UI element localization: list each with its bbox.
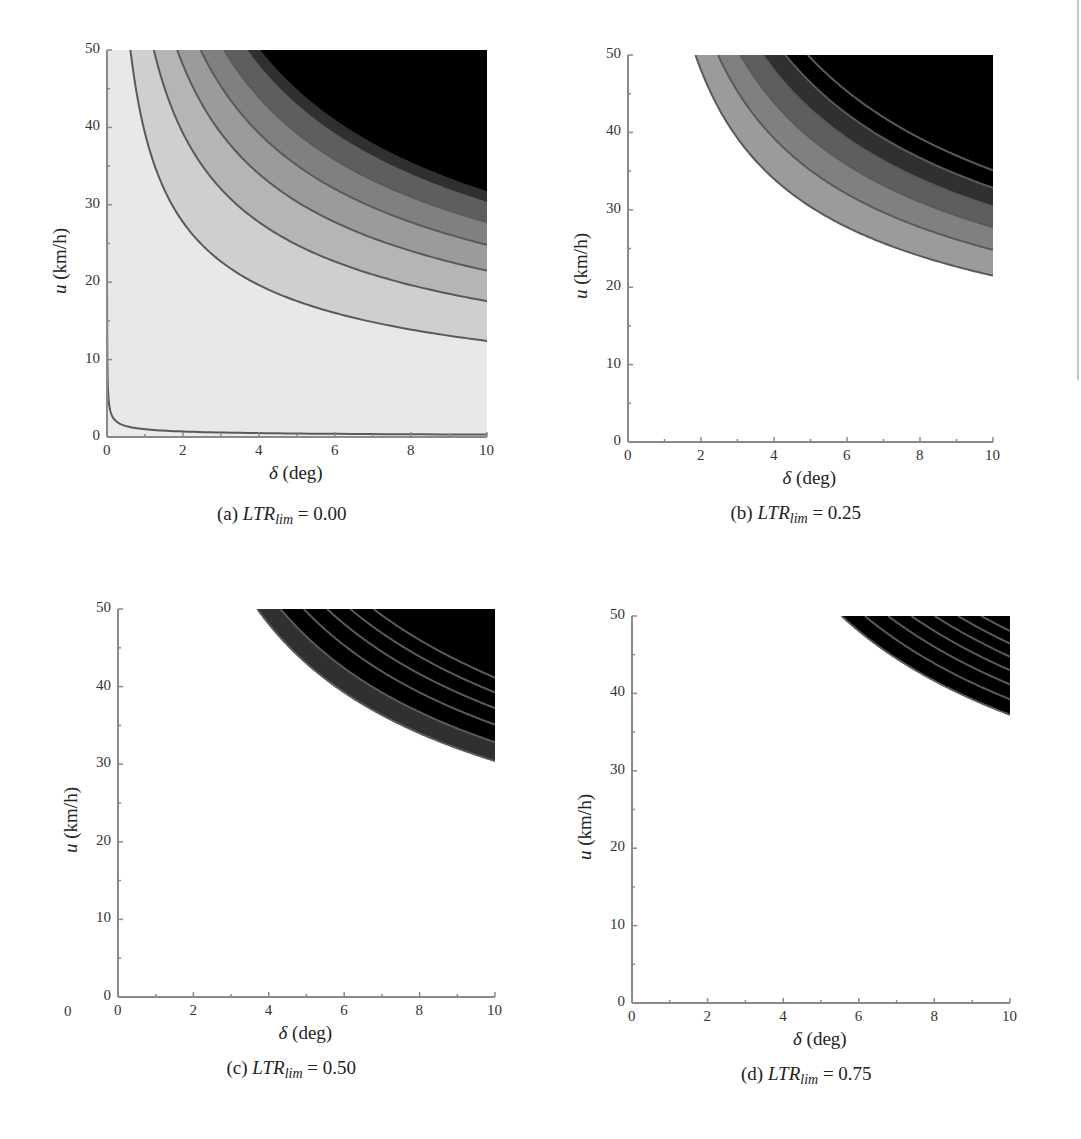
x-tick-label: 4 [255,443,263,458]
y-tick-label: 50 [85,41,100,56]
y-tick-label: 10 [610,917,625,932]
y-tick-label: 30 [606,201,621,216]
y-axis-label: u (km/h) [570,233,592,299]
y-axis-label: u (km/h) [574,794,596,860]
x-tick-label: 6 [843,448,851,463]
subplot-caption: (a) LTRlim = 0.00 [217,503,347,528]
x-tick-label: 0 [624,448,632,463]
y-tick-label: 40 [85,118,100,133]
x-tick-label: 4 [265,1003,273,1018]
x-tick-label: 8 [930,1009,938,1024]
y-tick-label: 40 [606,123,621,138]
x-tick-label: 6 [331,443,339,458]
y-tick-label: 10 [85,351,100,366]
y-tick-label: 10 [606,356,621,371]
x-tick-label: 2 [697,448,705,463]
x-tick-label: 10 [985,448,1000,463]
x-axis-label: δ (deg) [783,467,837,489]
x-tick-label: 2 [189,1003,197,1018]
y-axis-label: u (km/h) [49,228,71,294]
contour-plot-area [632,616,1012,1005]
y-tick-label: 0 [614,433,622,448]
page-edge-divider [1077,0,1079,380]
x-axis-label: δ (deg) [793,1028,847,1050]
y-tick-label: 40 [96,678,111,693]
y-tick-label: 50 [96,600,111,615]
x-tick-label: 4 [779,1009,787,1024]
y-tick-label: 20 [96,833,111,848]
x-tick-label: 8 [407,443,415,458]
x-axis-label: δ (deg) [269,462,323,484]
x-tick-label: 2 [179,443,187,458]
x-tick-label: 8 [916,448,924,463]
y-tick-label: 0 [618,994,626,1009]
subplot-b: 010203040500246810δ (deg)u (km/h)(b) LTR… [628,55,993,442]
subplot-caption: (d) LTRlim = 0.75 [741,1063,872,1088]
x-tick-label: 10 [1002,1009,1017,1024]
contour-plot-area [118,609,497,999]
y-tick-label: 40 [610,684,625,699]
y-tick-label: 50 [610,607,625,622]
y-tick-label: 30 [610,762,625,777]
x-tick-label: 10 [487,1003,502,1018]
y-tick-label: 0 [104,988,112,1003]
x-tick-label: 0 [114,1003,122,1018]
contour-plot-area [107,50,489,439]
subplot-caption: (c) LTRlim = 0.50 [227,1057,357,1082]
x-tick-label: 0 [628,1009,636,1024]
y-tick-label: 20 [606,278,621,293]
y-tick-label: 20 [85,273,100,288]
x-tick-label: 0 [103,443,111,458]
subplot-d: 010203040500246810δ (deg)u (km/h)(d) LTR… [632,616,1010,1003]
y-tick-label: 30 [85,196,100,211]
y-tick-label: 50 [606,46,621,61]
x-tick-label: 6 [340,1003,348,1018]
x-tick-label: 4 [770,448,778,463]
y-axis-label: u (km/h) [60,787,82,853]
y-tick-label: 0 [93,428,101,443]
stray-zero-label: 0 [64,1003,72,1020]
x-axis-label: δ (deg) [279,1022,333,1044]
y-tick-label: 20 [610,839,625,854]
x-tick-label: 2 [704,1009,712,1024]
x-tick-label: 10 [479,443,494,458]
subplot-c: 010203040500246810δ (deg)u (km/h)(c) LTR… [118,609,495,997]
y-tick-label: 10 [96,910,111,925]
x-tick-label: 6 [855,1009,863,1024]
y-tick-label: 30 [96,755,111,770]
subplot-caption: (b) LTRlim = 0.25 [731,502,862,527]
x-tick-label: 8 [416,1003,424,1018]
contour-plot-area [628,55,995,444]
subplot-a: 010203040500246810δ (deg)u (km/h)(a) LTR… [107,50,487,437]
